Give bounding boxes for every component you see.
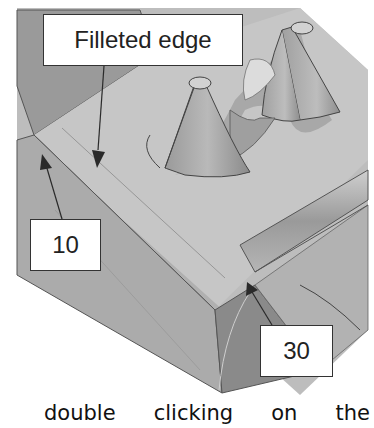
caption-word: the [336,398,370,428]
body-text-line: double clicking on the [0,398,374,428]
caption-word: double [44,398,116,428]
caption-word: on [271,398,297,428]
callout-radius-10: 10 [30,219,101,271]
cad-model-figure: Filleted edge 10 30 [0,0,374,400]
callout-radius-30: 30 [260,325,333,377]
caption-word: clicking [154,398,233,428]
callout-filleted-edge: Filleted edge [43,14,243,66]
